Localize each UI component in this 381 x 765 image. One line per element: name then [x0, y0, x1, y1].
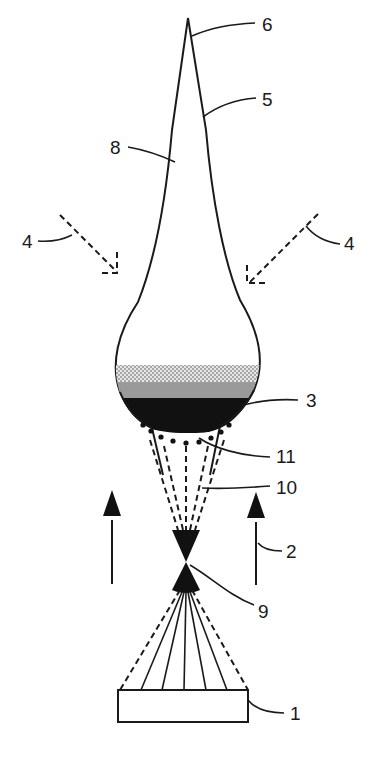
label-11: 11: [276, 446, 296, 467]
label-10: 10: [276, 477, 297, 498]
dashed-beams-upper: [150, 440, 224, 530]
label-9: 9: [258, 601, 269, 622]
layer-stack: [110, 365, 270, 433]
schematic-diagram: 6 5 8 4 4 3 11 10 2 9 1: [0, 0, 381, 765]
label-5: 5: [262, 89, 273, 110]
source-box: [118, 690, 248, 722]
label-4-left: 4: [22, 231, 33, 252]
label-3: 3: [306, 390, 317, 411]
neck-right: [210, 426, 220, 475]
dashed-arrow-left-icon: [60, 215, 117, 273]
arrow-up-right-icon: [247, 492, 265, 585]
spire-outline: [188, 18, 260, 426]
label-1: 1: [290, 703, 301, 724]
label-2: 2: [286, 541, 297, 562]
label-4-right: 4: [344, 233, 355, 254]
focus-point: [172, 530, 200, 593]
label-6: 6: [262, 14, 273, 35]
dashed-arrow-right-icon: [247, 214, 318, 283]
arrow-up-left-icon: [103, 490, 121, 584]
beams-lower: [120, 590, 248, 690]
label-8: 8: [110, 137, 121, 158]
